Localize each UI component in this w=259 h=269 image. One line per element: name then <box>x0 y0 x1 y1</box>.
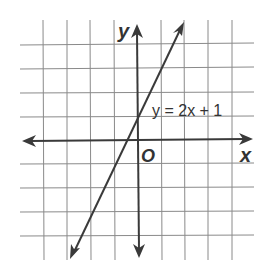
grid-line-horizontal <box>20 211 254 212</box>
coordinate-graph: y x O y = 2x + 1 <box>0 0 259 269</box>
y-axis-label: y <box>117 20 130 42</box>
origin-label: O <box>141 146 155 166</box>
grid-line-horizontal <box>20 235 254 236</box>
line-lower-arrow-icon <box>70 244 80 259</box>
grid-line-horizontal <box>20 187 254 188</box>
grid-line-horizontal <box>20 163 254 164</box>
equation-label: y = 2x + 1 <box>152 102 222 119</box>
x-axis-label: x <box>239 144 252 166</box>
